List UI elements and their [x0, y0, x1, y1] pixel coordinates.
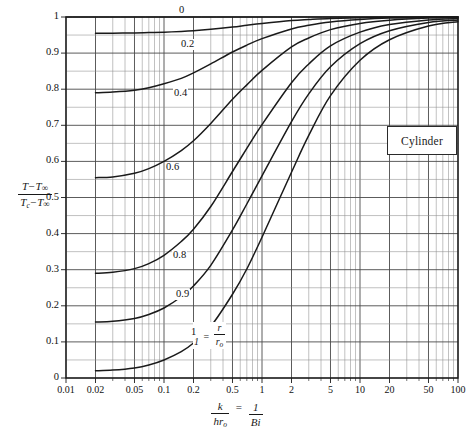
rro-one: 1 [194, 336, 199, 347]
y-tick-label: 0.6 [33, 154, 59, 165]
rro-num: r [214, 322, 226, 335]
x-tick-label: 0.02 [76, 384, 116, 395]
rro-den-sub: o [220, 340, 224, 349]
curve-label-0p9: 0.9 [175, 289, 190, 300]
curve-label-0p6: 0.6 [165, 162, 180, 173]
y-tick-label: 0.2 [33, 299, 59, 310]
y-tick-label: 0.3 [33, 263, 59, 274]
curve-label-0: 0 [178, 5, 185, 16]
cylinder-annotation-box: Cylinder [387, 126, 457, 155]
curve-label-0p2: 0.2 [180, 39, 195, 50]
x-frac-den: hr [213, 415, 223, 427]
chart-plot-area [0, 0, 474, 437]
chart-root: T−T∞ Tc−T∞ k hro = 1 Bi Cylinder 1 = r r… [0, 0, 474, 437]
x-frac-den-sub: o [223, 420, 227, 429]
y-tick-label: 0.5 [33, 191, 59, 202]
rro-equals: = [202, 331, 212, 342]
cylinder-label: Cylinder [401, 135, 443, 147]
x-frac2-num: 1 [249, 401, 263, 415]
x-frac-num: k [211, 400, 229, 414]
y-tick-label: 0.7 [33, 118, 59, 129]
y-tick-label: 0.4 [33, 227, 59, 238]
y-tick-label: 0.8 [33, 82, 59, 93]
x-tick-label: 20 [370, 384, 410, 395]
r-over-ro-annotation: 1 = r ro [193, 322, 226, 349]
curve-label-0p4: 0.4 [173, 88, 188, 99]
y-tick-label: 0.9 [33, 46, 59, 57]
x-tick-label: 100 [438, 384, 474, 395]
x-tick-label: 0.2 [174, 384, 214, 395]
x-axis-label: k hro = 1 Bi [0, 400, 474, 429]
y-tick-label: 0.1 [33, 335, 59, 346]
curve-label-1: 1 [190, 327, 197, 338]
curve-label-0p8: 0.8 [172, 250, 187, 261]
x-tick-label: 2 [272, 384, 312, 395]
x-equals: = [232, 401, 246, 413]
x-frac2-den: Bi [249, 415, 263, 428]
y-tick-label: 0 [33, 371, 59, 382]
y-tick-label: 1 [33, 10, 59, 21]
